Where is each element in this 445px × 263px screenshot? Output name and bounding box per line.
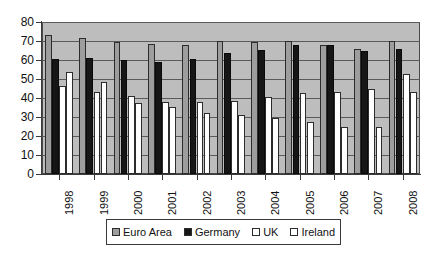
x-axis-tick [162,175,163,180]
bar-euro-area-1999 [79,38,86,174]
bar-euro-area-2006 [320,45,327,174]
bar-uk-1998 [59,86,66,174]
x-axis-tick-label: 2007 [373,191,384,215]
bar-germany-2003 [224,53,231,174]
bar-euro-area-2001 [148,44,155,174]
legend-label: Euro Area [123,227,172,238]
legend-swatch-uk [252,228,260,236]
legend-swatch-germany [184,228,192,236]
bar-euro-area-2002 [182,45,189,174]
plot-area [42,22,420,174]
bar-ireland-2007 [376,127,383,174]
legend-item-ireland: Ireland [290,227,335,238]
x-axis-tick [334,175,335,180]
x-axis-tick [128,175,129,180]
bar-germany-1999 [86,58,93,174]
x-axis-tick [403,175,404,180]
x-axis-tick-label: 2000 [133,191,144,215]
y-axis-tick-label: 50 [0,73,34,85]
bar-germany-2001 [155,62,162,174]
x-axis-tick [368,175,369,180]
bar-ireland-2002 [204,113,211,174]
bar-germany-2006 [327,45,334,174]
chart-legend: Euro AreaGermanyUKIreland [106,219,341,245]
bar-chart: 8070605040302010019981999200020012002200… [0,0,445,263]
y-axis-tick-label: 60 [0,54,34,66]
bar-germany-2007 [361,51,368,175]
bar-euro-area-2007 [354,49,361,174]
x-axis-tick [265,175,266,180]
x-axis-tick-label: 1999 [99,191,110,215]
y-axis-tick-label: 80 [0,16,34,28]
legend-swatch-euro [112,228,120,236]
bar-euro-area-2004 [251,42,258,174]
legend-swatch-ireland [290,228,298,236]
y-axis-line [41,21,42,175]
bar-ireland-1999 [101,82,108,174]
x-axis-tick-label: 2001 [167,191,178,215]
x-axis-tick-label: 2002 [202,191,213,215]
bar-uk-2002 [197,102,204,174]
bar-germany-2002 [190,59,197,174]
bar-germany-2000 [121,60,128,174]
bar-ireland-2004 [272,118,279,174]
bar-uk-2006 [334,92,341,174]
bar-uk-2008 [403,74,410,174]
bar-ireland-1998 [66,72,73,174]
x-axis-tick [59,175,60,180]
bar-uk-2000 [128,96,135,174]
y-axis-tick-label: 10 [0,149,34,161]
y-axis-tick-label: 70 [0,35,34,47]
bar-uk-1999 [94,92,101,174]
y-axis-tick-label: 30 [0,111,34,123]
bar-ireland-2000 [135,103,142,174]
x-axis-tick-label: 2008 [408,191,419,215]
bar-uk-2005 [300,93,307,174]
x-axis-tick-label: 2004 [270,191,281,215]
bar-germany-2004 [258,50,265,174]
legend-item-uk: UK [252,227,278,238]
bar-uk-2004 [265,97,272,174]
bar-ireland-2008 [410,92,417,174]
x-axis-tick [94,175,95,180]
legend-label: UK [263,227,278,238]
y-axis-tick-label: 40 [0,92,34,104]
bar-germany-1998 [52,59,59,174]
legend-item-germany: Germany [184,227,240,238]
bar-ireland-2005 [307,122,314,174]
bar-euro-area-2003 [217,41,224,174]
y-axis-tick-label: 20 [0,130,34,142]
bars-layer [42,22,420,174]
x-axis-tick-label: 2005 [305,191,316,215]
bar-germany-2005 [293,45,300,174]
x-axis-tick [300,175,301,180]
bar-euro-area-2000 [114,42,121,174]
x-axis-tick [231,175,232,180]
bar-euro-area-1998 [45,35,52,174]
legend-label: Germany [195,227,240,238]
legend-label: Ireland [301,227,335,238]
bar-germany-2008 [396,49,403,174]
bar-uk-2001 [162,102,169,174]
bar-euro-area-2005 [285,41,292,174]
bar-uk-2003 [231,101,238,174]
bar-euro-area-2008 [389,41,396,174]
bar-ireland-2006 [341,127,348,174]
x-axis-line [41,174,421,175]
x-axis-tick-label: 1998 [64,191,75,215]
bar-uk-2007 [368,89,375,174]
bar-ireland-2003 [238,115,245,174]
x-axis-tick-label: 2006 [339,191,350,215]
y-axis-tick-label: 0 [0,168,34,180]
x-axis-tick [197,175,198,180]
bar-ireland-2001 [169,107,176,174]
legend-item-euro-area: Euro Area [112,227,172,238]
x-axis-tick-label: 2003 [236,191,247,215]
